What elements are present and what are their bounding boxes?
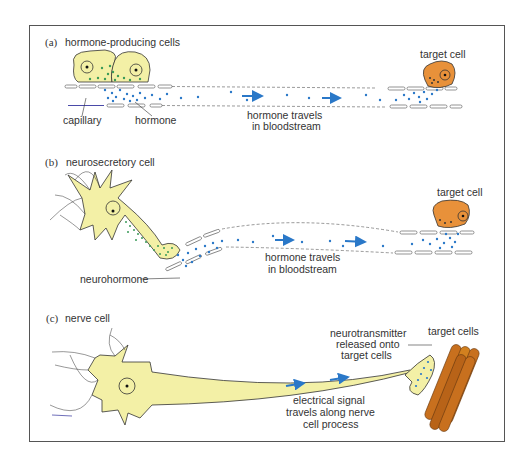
- hormone-travels-label-b-2: in bloodstream: [268, 263, 337, 275]
- signal-label-2: travels along nerve: [286, 406, 375, 418]
- hormone-dots: [104, 89, 438, 103]
- panel-b: (b) neurosecretory cell: [45, 156, 483, 285]
- panel-c-title: nerve cell: [65, 312, 110, 324]
- hormone-label: hormone: [135, 114, 177, 126]
- signal-label-3: cell process: [303, 418, 358, 430]
- target-cell-a-label: target cell: [420, 48, 466, 60]
- neurohormone-label: neurohormone: [80, 273, 148, 285]
- panel-c-letter: (c): [46, 312, 59, 325]
- capillary-label: capillary: [63, 114, 102, 126]
- capillary-wall: [65, 85, 172, 107]
- hormone-travels-label-a-2: in bloodstream: [252, 120, 321, 132]
- hormone-travels-label-b-1: hormone travels: [265, 251, 340, 263]
- signal-label-1: electrical signal: [293, 394, 365, 406]
- target-cell-b: [433, 200, 469, 228]
- neurotransmitter-label-3: target cells: [341, 349, 392, 361]
- flow-arrow-icon: [330, 377, 348, 380]
- target-cell-b-label: target cell: [437, 186, 483, 198]
- flow-arrow-icon: [345, 241, 365, 242]
- panel-a: (a) hormone-producing cells: [45, 36, 466, 132]
- panel-c: (c) nerve cell neurotransmitter released…: [46, 312, 481, 433]
- nerve-terminal: [405, 355, 435, 395]
- panel-b-letter: (b): [45, 156, 58, 169]
- panel-b-title: neurosecretory cell: [66, 156, 155, 168]
- target-cells-c-label: target cells: [428, 325, 479, 337]
- panel-a-title: hormone-producing cells: [65, 36, 180, 48]
- panel-a-letter: (a): [45, 36, 58, 49]
- signaling-diagram: (a) hormone-producing cells: [0, 0, 523, 463]
